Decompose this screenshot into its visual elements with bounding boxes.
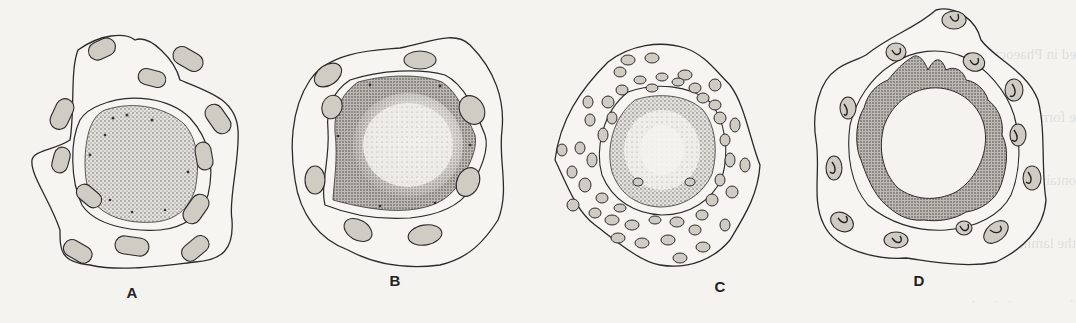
- panel-label-b: B: [385, 272, 405, 289]
- panel-a: A: [0, 0, 270, 323]
- panel-label-d: D: [909, 272, 929, 289]
- panel-d: D: [806, 0, 1076, 323]
- cross-section-b-drawing: [270, 0, 540, 323]
- panel-label-c: C: [710, 278, 730, 295]
- cross-section-d-drawing: [806, 0, 1076, 323]
- panel-c: C: [540, 0, 810, 323]
- figure: ed in Phaeocystis, Ulva e form, gameto […: [0, 0, 1076, 323]
- cross-section-c-drawing: [540, 0, 810, 323]
- cross-section-a-drawing: [0, 0, 270, 323]
- panel-b: B: [270, 0, 540, 323]
- panel-label-a: A: [122, 284, 142, 301]
